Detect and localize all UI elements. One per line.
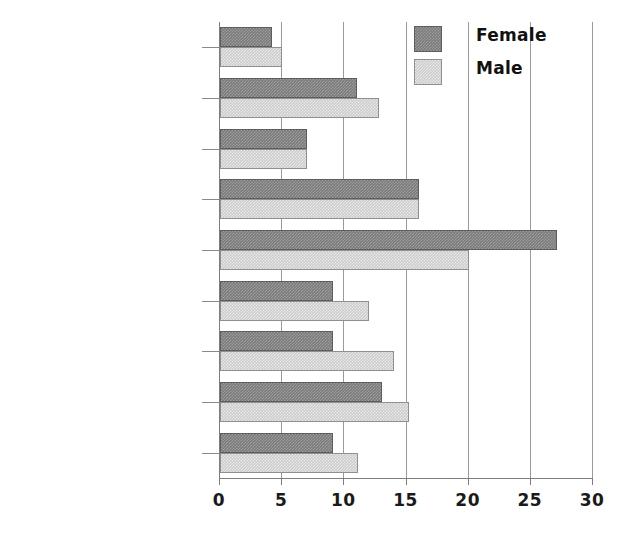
x-tick-label-15: 15 bbox=[386, 490, 426, 510]
x-tick-25 bbox=[530, 478, 531, 485]
x-tick-5 bbox=[281, 478, 282, 485]
bar-female bbox=[220, 433, 333, 453]
bar-female bbox=[220, 78, 357, 98]
bar-male bbox=[220, 402, 409, 422]
y-tick-6 bbox=[202, 351, 219, 352]
category-row: Bangladeshi bbox=[219, 225, 592, 276]
y-tick-4 bbox=[202, 250, 219, 251]
bar-male bbox=[220, 250, 469, 270]
y-tick-7 bbox=[202, 402, 219, 403]
x-tick-30 bbox=[592, 478, 593, 485]
x-tick-label-25: 25 bbox=[510, 490, 550, 510]
bar-male bbox=[220, 199, 419, 219]
category-row: Pakistani bbox=[219, 174, 592, 225]
bar-male bbox=[220, 149, 307, 169]
x-tick-label-5: 5 bbox=[261, 490, 301, 510]
legend-label-female: Female bbox=[476, 25, 547, 45]
bar-female bbox=[220, 331, 333, 351]
bar-female bbox=[220, 230, 557, 250]
x-tick-label-0: 0 bbox=[199, 490, 239, 510]
bar-female bbox=[220, 27, 272, 47]
x-tick-0 bbox=[219, 478, 220, 485]
bar-male bbox=[220, 453, 358, 473]
x-tick-20 bbox=[468, 478, 469, 485]
y-tick-1 bbox=[202, 98, 219, 99]
x-tick-label-30: 30 bbox=[572, 490, 612, 510]
bar-female bbox=[220, 281, 333, 301]
plot-area: WhiteMixedIndianPakistaniBangladeshiOthe… bbox=[219, 22, 592, 478]
category-row: Other bbox=[219, 427, 592, 478]
x-tick-label-20: 20 bbox=[448, 490, 488, 510]
category-row: Black African bbox=[219, 377, 592, 428]
category-row: Indian bbox=[219, 123, 592, 174]
bar-female bbox=[220, 382, 382, 402]
x-tick-10 bbox=[343, 478, 344, 485]
y-tick-2 bbox=[202, 149, 219, 150]
legend-label-male: Male bbox=[476, 58, 523, 78]
y-tick-8 bbox=[202, 453, 219, 454]
category-row: Black Caribbean bbox=[219, 326, 592, 377]
y-tick-0 bbox=[202, 47, 219, 48]
y-tick-3 bbox=[202, 199, 219, 200]
male-swatch-icon bbox=[414, 59, 442, 85]
bar-female bbox=[220, 129, 307, 149]
x-tick-15 bbox=[406, 478, 407, 485]
category-row: Mixed bbox=[219, 73, 592, 124]
category-row: Other Asian bbox=[219, 275, 592, 326]
bar-male bbox=[220, 301, 369, 321]
bar-male bbox=[220, 47, 282, 67]
horizontal-bar-chart: WhiteMixedIndianPakistaniBangladeshiOthe… bbox=[0, 0, 620, 550]
y-tick-5 bbox=[202, 301, 219, 302]
female-swatch-icon bbox=[414, 26, 442, 52]
bar-female bbox=[220, 179, 419, 199]
bar-male bbox=[220, 351, 394, 371]
x-tick-label-10: 10 bbox=[323, 490, 363, 510]
gridline-30 bbox=[592, 22, 593, 478]
bar-male bbox=[220, 98, 379, 118]
